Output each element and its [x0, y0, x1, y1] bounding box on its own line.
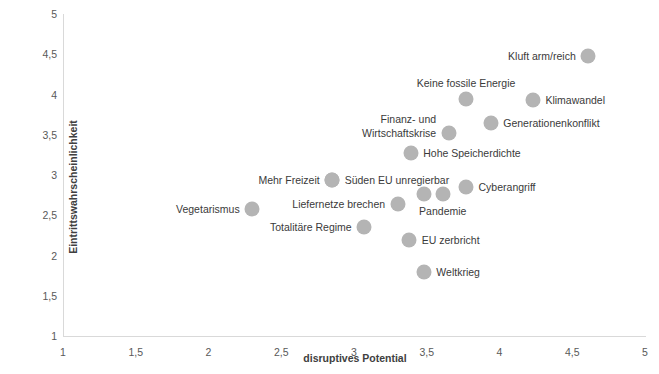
- data-point-label: Vegetarismus: [176, 203, 240, 215]
- data-point-label: Süden EU unregierbar: [345, 174, 449, 186]
- data-point-label: Totalitäre Regime: [270, 221, 352, 233]
- x-axis-tick-label: 4,5: [565, 346, 580, 358]
- x-axis-tick-label: 1: [60, 346, 66, 358]
- data-point-label: Cyberangriff: [479, 181, 536, 193]
- x-axis-tick-label: 4: [497, 346, 503, 358]
- data-point[interactable]: [245, 201, 260, 216]
- data-point-label: Generationenkonflikt: [503, 117, 599, 129]
- x-axis-tick-label: 2,5: [274, 346, 289, 358]
- y-axis-tick-label: 3,5: [42, 129, 57, 141]
- data-point-label: Keine fossile Energie: [417, 77, 516, 89]
- data-point-label: Liefernetze brechen: [292, 198, 385, 210]
- y-axis-title: Eintrittswahrscheinlichkeit: [67, 120, 79, 254]
- y-axis-tick-label: 4,5: [42, 48, 57, 60]
- data-point-label: Mehr Freizeit: [258, 174, 319, 186]
- data-point[interactable]: [483, 115, 498, 130]
- y-axis-tick-label: 2: [51, 250, 57, 262]
- data-point[interactable]: [459, 92, 474, 107]
- data-point[interactable]: [435, 187, 450, 202]
- data-point[interactable]: [325, 172, 340, 187]
- data-point-label: Kluft arm/reich: [508, 50, 576, 62]
- data-point[interactable]: [402, 233, 417, 248]
- scatter-chart: Eintrittswahrscheinlichkeit disruptives …: [0, 0, 659, 374]
- data-point-label: EU zerbricht: [422, 234, 480, 246]
- y-axis-tick-label: 5: [51, 8, 57, 20]
- data-point[interactable]: [525, 93, 540, 108]
- data-point-label: Hohe Speicherdichte: [423, 147, 520, 159]
- data-point[interactable]: [390, 196, 405, 211]
- data-point[interactable]: [581, 48, 596, 63]
- data-point-label: Pandemie: [419, 205, 466, 217]
- data-point[interactable]: [459, 180, 474, 195]
- y-axis-tick-label: 1: [51, 330, 57, 342]
- y-axis-tick-label: 2,5: [42, 209, 57, 221]
- data-point-label: Finanz- und: [381, 113, 436, 125]
- x-axis-tick-label: 5: [642, 346, 648, 358]
- data-point-label: Klimawandel: [545, 94, 605, 106]
- data-point-label: Wirtschaftskrise: [362, 127, 436, 139]
- y-axis-tick-label: 1,5: [42, 290, 57, 302]
- y-axis-tick-label: 4: [51, 89, 57, 101]
- x-axis-tick-label: 3,5: [419, 346, 434, 358]
- data-point[interactable]: [441, 126, 456, 141]
- x-axis-tick-label: 2: [206, 346, 212, 358]
- x-axis-tick-label: 1,5: [128, 346, 143, 358]
- data-point-label: Weltkrieg: [436, 266, 480, 278]
- y-axis-tick-label: 3: [51, 169, 57, 181]
- x-axis-tick-label: 3: [351, 346, 357, 358]
- data-point[interactable]: [416, 264, 431, 279]
- x-axis-line: [63, 336, 646, 337]
- y-axis-line: [63, 14, 64, 337]
- data-point[interactable]: [416, 187, 431, 202]
- data-point[interactable]: [403, 146, 418, 161]
- data-point[interactable]: [357, 220, 372, 235]
